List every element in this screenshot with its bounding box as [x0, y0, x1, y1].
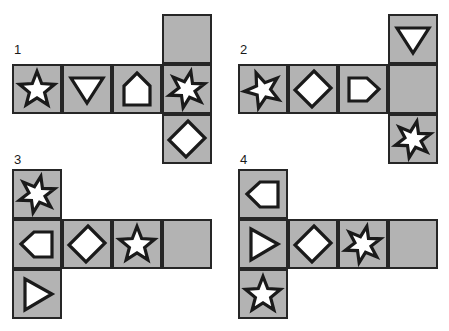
triangle-right-icon: [14, 271, 60, 317]
pentagon-right-icon: [340, 66, 386, 112]
six-point-star-icon: [390, 116, 436, 162]
net2-cell-row-2[interactable]: [288, 64, 338, 114]
pentagon-up-icon: [114, 66, 160, 112]
net1-cell-top[interactable]: [162, 14, 212, 64]
six-point-star-icon: [14, 171, 60, 217]
net2-cell-bottom[interactable]: [388, 114, 438, 164]
net3-cell-row-4[interactable]: [162, 219, 212, 269]
five-point-star-icon: [114, 221, 160, 267]
net-label-1: 1: [14, 43, 21, 56]
six-point-star-icon: [340, 221, 386, 267]
pentagon-left-icon: [240, 171, 286, 217]
net3-cell-row-2[interactable]: [62, 219, 112, 269]
net2-cell-row-3[interactable]: [338, 64, 388, 114]
net3-cell-top[interactable]: [12, 169, 62, 219]
triangle-down-icon: [64, 66, 110, 112]
net4-cell-top[interactable]: [238, 169, 288, 219]
net1-cell-bottom[interactable]: [162, 114, 212, 164]
parallelogram-icon: [290, 221, 336, 267]
net4-cell-row-3[interactable]: [338, 219, 388, 269]
net1-cell-row-1[interactable]: [12, 64, 62, 114]
parallelogram-icon: [290, 66, 336, 112]
net1-cell-row-3[interactable]: [112, 64, 162, 114]
net-label-4: 4: [240, 153, 247, 166]
net1-cell-row-4[interactable]: [162, 64, 212, 114]
net1-cell-row-2[interactable]: [62, 64, 112, 114]
net3-cell-row-3[interactable]: [112, 219, 162, 269]
net4-cell-row-2[interactable]: [288, 219, 338, 269]
net4-cell-bottom[interactable]: [238, 269, 288, 319]
pentagon-left-icon: [14, 221, 60, 267]
five-point-star-icon: [240, 271, 286, 317]
net3-cell-row-1[interactable]: [12, 219, 62, 269]
net2-cell-row-1[interactable]: [238, 64, 288, 114]
puzzle-canvas: 1234: [0, 0, 449, 331]
parallelogram-icon: [164, 116, 210, 162]
five-point-star-icon: [14, 66, 60, 112]
triangle-right-icon: [240, 221, 286, 267]
net3-cell-bottom[interactable]: [12, 269, 62, 319]
net4-cell-row-1[interactable]: [238, 219, 288, 269]
net2-cell-top[interactable]: [388, 14, 438, 64]
five-point-star-tilted-icon: [240, 66, 286, 112]
net4-cell-row-4[interactable]: [388, 219, 438, 269]
net2-cell-row-4[interactable]: [388, 64, 438, 114]
parallelogram-icon: [64, 221, 110, 267]
triangle-down-icon: [390, 16, 436, 62]
six-point-star-icon: [164, 66, 210, 112]
net-label-2: 2: [240, 43, 247, 56]
net-label-3: 3: [14, 153, 21, 166]
